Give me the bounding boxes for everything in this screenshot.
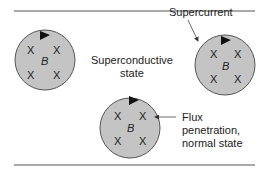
- flux-marker: X: [53, 69, 60, 82]
- field-label: B: [127, 122, 134, 135]
- supercurrent-label: Supercurrent: [169, 6, 233, 19]
- flux-marker: X: [234, 48, 241, 61]
- superconductive-state-label: Superconductive state: [90, 54, 174, 80]
- flux-marker: X: [234, 73, 241, 86]
- flux-marker: X: [114, 110, 121, 123]
- flux-marker: X: [139, 110, 146, 123]
- flux-marker: X: [53, 44, 60, 57]
- flux-marker: X: [27, 44, 34, 57]
- flux-marker: X: [210, 48, 217, 61]
- flux-penetration-label: Flux penetration, normal state: [182, 111, 243, 150]
- flux-marker: X: [210, 73, 217, 86]
- flux-marker: X: [114, 135, 121, 148]
- supercurrent-pointer: [188, 20, 198, 41]
- field-label: B: [222, 60, 229, 73]
- flux-marker: X: [27, 69, 34, 82]
- field-label: B: [41, 55, 48, 68]
- flux-marker: X: [139, 135, 146, 148]
